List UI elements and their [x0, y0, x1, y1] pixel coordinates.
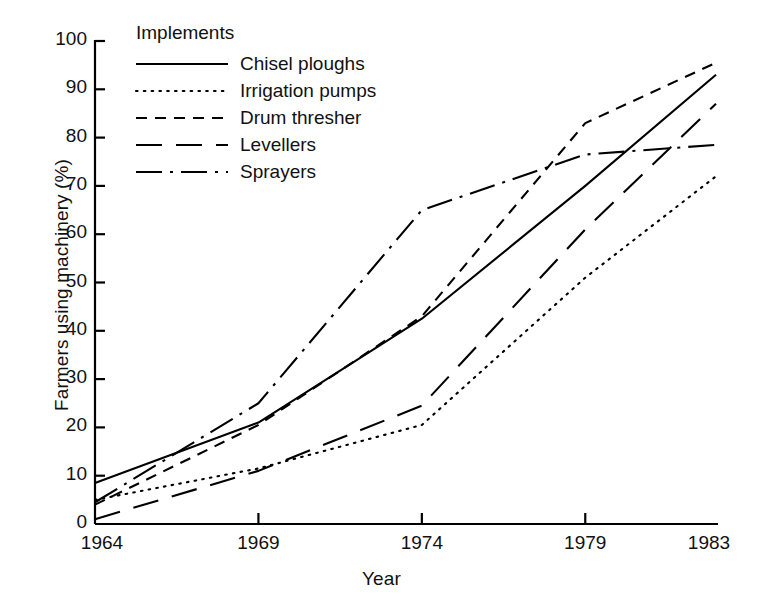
legend-line-swatch — [134, 84, 230, 98]
y-tick-label: 70 — [29, 173, 87, 195]
x-tick-label: 1979 — [540, 532, 630, 554]
y-tick-label: 60 — [29, 221, 87, 243]
legend-entry: Chisel ploughs — [134, 50, 376, 77]
legend-label: Chisel ploughs — [240, 53, 365, 75]
x-tick-label: 1983 — [664, 532, 754, 554]
legend-title: Implements — [136, 22, 376, 44]
legend-line-swatch — [134, 165, 230, 179]
legend-entry: Levellers — [134, 131, 376, 158]
x-tick-label: 1974 — [377, 532, 467, 554]
legend-entry: Sprayers — [134, 158, 376, 185]
y-tick-label: 80 — [29, 125, 87, 147]
legend-entries: Chisel ploughsIrrigation pumpsDrum thres… — [134, 50, 376, 185]
y-tick-label: 30 — [29, 366, 87, 388]
y-tick-label: 20 — [29, 414, 87, 436]
x-tick-label: 1969 — [213, 532, 303, 554]
legend-label: Sprayers — [240, 161, 316, 183]
legend-label: Levellers — [240, 134, 316, 156]
legend-line-swatch — [134, 57, 230, 71]
x-axis-title: Year — [0, 568, 763, 590]
chart-figure: Farmers using machinery (%) Year 0102030… — [0, 0, 763, 612]
legend-entry: Irrigation pumps — [134, 77, 376, 104]
line-chart-plot — [0, 0, 763, 612]
y-tick-label: 100 — [29, 28, 87, 50]
y-tick-label: 90 — [29, 76, 87, 98]
legend-label: Drum thresher — [240, 107, 361, 129]
chart-legend: Implements Chisel ploughsIrrigation pump… — [134, 22, 376, 185]
x-tick-label: 1964 — [57, 532, 147, 554]
legend-label: Irrigation pumps — [240, 80, 376, 102]
legend-line-swatch — [134, 138, 230, 152]
legend-line-swatch — [134, 111, 230, 125]
y-tick-label: 40 — [29, 318, 87, 340]
y-tick-label: 50 — [29, 270, 87, 292]
y-tick-label: 0 — [29, 511, 87, 533]
legend-entry: Drum thresher — [134, 104, 376, 131]
y-tick-label: 10 — [29, 463, 87, 485]
series-line — [95, 176, 716, 500]
